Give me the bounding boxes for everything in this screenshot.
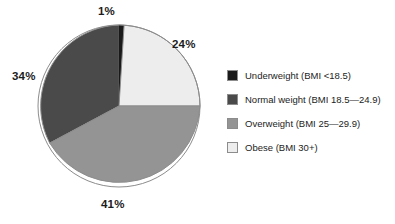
legend-swatch-obese [227, 142, 238, 153]
legend-item-underweight: Underweight (BMI <18.5) [227, 63, 392, 87]
slice-label-overweight: 41% [101, 198, 125, 210]
legend-label-underweight: Underweight (BMI <18.5) [245, 70, 351, 81]
legend-label-obese: Obese (BMI 30+) [245, 142, 318, 153]
slice-label-underweight: 1% [98, 5, 115, 17]
legend-item-overweight: Overweight (BMI 25—29.9) [227, 111, 392, 135]
legend-item-normal-weight: Normal weight (BMI 18.5—24.9) [227, 87, 392, 111]
legend-label-overweight: Overweight (BMI 25—29.9) [245, 118, 360, 129]
legend-swatch-overweight [227, 118, 238, 129]
legend-swatch-underweight [227, 70, 238, 81]
chart-legend: Underweight (BMI <18.5) Normal weight (B… [227, 63, 392, 159]
slice-label-obese: 24% [172, 38, 196, 50]
slice-label-normal-weight: 34% [12, 70, 36, 82]
pie-chart-figure: 1% 24% 41% 34% Underweight (BMI <18.5) N… [0, 0, 395, 224]
legend-item-obese: Obese (BMI 30+) [227, 135, 392, 159]
legend-label-normal-weight: Normal weight (BMI 18.5—24.9) [245, 94, 381, 105]
legend-swatch-normal-weight [227, 94, 238, 105]
